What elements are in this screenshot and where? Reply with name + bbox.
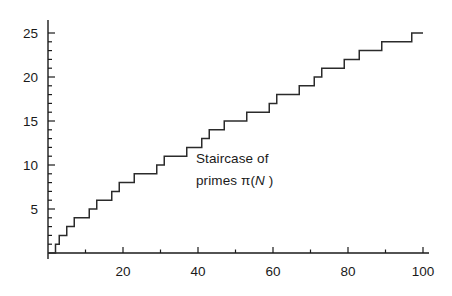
x-axis-tick-label: 20 xyxy=(115,264,130,279)
y-axis-tick-label: 10 xyxy=(23,158,38,173)
annotation-paren-close: ) xyxy=(265,173,273,188)
x-axis-tick-label: 40 xyxy=(190,264,205,279)
annotation-primes-word: primes xyxy=(196,173,241,188)
x-axis-tick-label: 100 xyxy=(412,264,435,279)
x-axis-tick-label: 80 xyxy=(340,264,355,279)
x-axis-tick-label: 60 xyxy=(265,264,280,279)
annotation-pi-open: π( xyxy=(241,173,255,188)
chart-annotation-line-2: primes π(N ) xyxy=(196,170,273,192)
y-axis-tick-label: 15 xyxy=(23,114,38,129)
annotation-variable-n: N xyxy=(255,173,265,188)
chart-annotation-line-1: Staircase of xyxy=(196,148,268,170)
y-axis-tick-label: 5 xyxy=(30,202,38,217)
y-axis-tick-label: 25 xyxy=(23,26,38,41)
prime-staircase-chart: 20406080100510152025 Staircase of primes… xyxy=(0,0,452,296)
prime-counting-step-line xyxy=(48,33,423,253)
y-axis-tick-label: 20 xyxy=(23,70,38,85)
